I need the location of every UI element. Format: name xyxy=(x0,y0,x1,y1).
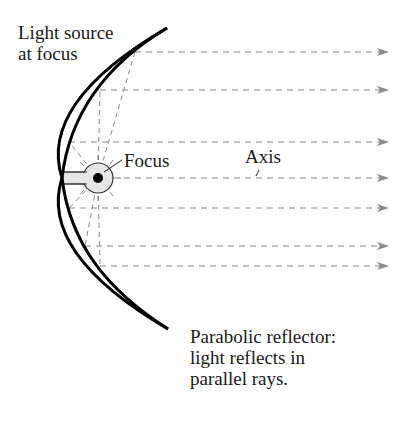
light-source-label-line2: at focus xyxy=(18,43,114,64)
reflector-caption-line1: Parabolic reflector: xyxy=(190,326,336,347)
reflector-caption: Parabolic reflector: light reflects in p… xyxy=(190,326,336,389)
light-source-label: Light source at focus xyxy=(18,22,114,64)
focus-point xyxy=(93,173,103,183)
axis-label: Axis xyxy=(245,146,281,167)
arrowhead-icon xyxy=(377,242,389,250)
axis-leader-line xyxy=(256,170,259,176)
light-source-label-line1: Light source xyxy=(18,22,114,43)
focus-label: Focus xyxy=(124,150,169,171)
arrowheads xyxy=(377,48,389,270)
reflector-caption-line2: light reflects in xyxy=(190,347,336,368)
reflected-rays xyxy=(69,52,380,266)
reflector-caption-line3: parallel rays. xyxy=(190,368,336,389)
